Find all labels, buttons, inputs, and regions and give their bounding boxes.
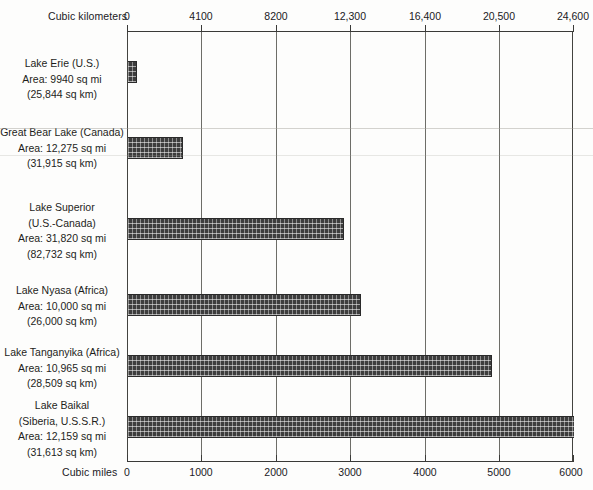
top-tick-label-2: 8200 [264, 10, 287, 22]
bottom-tick-mark-0 [127, 455, 128, 462]
row-label-lake-nyasa: Lake Nyasa (Africa) Area: 10,000 sq mi (… [0, 283, 124, 330]
row-label-line: (26,000 sq km) [0, 314, 124, 330]
gridline-1000 [201, 32, 202, 461]
bottom-tick-mark-3 [350, 455, 351, 462]
row-label-line: Lake Baikal [0, 398, 124, 414]
row-label-line: Area: 9940 sq mi [0, 72, 124, 88]
row-label-line: Lake Superior [0, 200, 124, 216]
top-tick-mark-0 [127, 25, 128, 32]
row-label-lake-tanganyika: Lake Tanganyika (Africa) Area: 10,965 sq… [0, 345, 124, 392]
row-label-line: Lake Erie (U.S.) [0, 56, 124, 72]
bottom-tick-label-4: 4000 [413, 466, 436, 478]
row-label-line: Area: 10,000 sq mi [0, 299, 124, 315]
row-label-line: (28,509 sq km) [0, 376, 124, 392]
bottom-tick-mark-6 [573, 455, 574, 462]
row-label-line: (82,732 sq km) [0, 247, 124, 263]
row-label-line: Area: 12,275 sq mi [0, 141, 124, 157]
bottom-tick-mark-1 [201, 455, 202, 462]
bottom-tick-mark-5 [499, 455, 500, 462]
top-tick-label-1: 4100 [189, 10, 212, 22]
row-label-lake-erie: Lake Erie (U.S.) Area: 9940 sq mi (25,84… [0, 56, 124, 103]
row-label-line: (Siberia, U.S.S.R.) [0, 414, 124, 430]
bottom-tick-label-2: 2000 [264, 466, 287, 478]
bottom-tick-label-1: 1000 [189, 466, 212, 478]
bottom-tick-mark-2 [276, 455, 277, 462]
bar-great-bear-lake [128, 137, 183, 159]
row-label-great-bear-lake: Great Bear Lake (Canada) Area: 12,275 sq… [0, 125, 124, 172]
row-label-line: Area: 31,820 sq mi [0, 231, 124, 247]
top-tick-mark-2 [276, 25, 277, 32]
row-label-line: (U.S.-Canada) [0, 216, 124, 232]
bottom-tick-mark-4 [425, 455, 426, 462]
bar-lake-superior [128, 218, 344, 240]
bottom-tick-label-6: 6000 [559, 466, 582, 478]
top-tick-mark-1 [201, 25, 202, 32]
row-label-line: Great Bear Lake (Canada) [0, 125, 124, 141]
bar-lake-erie [128, 61, 137, 83]
top-tick-mark-6 [573, 25, 574, 32]
plot-area [127, 32, 573, 461]
row-label-line: (31,915 sq km) [0, 156, 124, 172]
top-tick-label-4: 16,400 [409, 10, 441, 22]
bar-lake-tanganyika [128, 355, 492, 377]
row-label-lake-baikal: Lake Baikal (Siberia, U.S.S.R.) Area: 12… [0, 398, 124, 460]
top-tick-label-6: 24,600 [557, 10, 589, 22]
top-tick-label-3: 12,300 [334, 10, 366, 22]
top-tick-mark-4 [425, 25, 426, 32]
top-tick-label-0: 0 [124, 10, 130, 22]
chart-page: Cubic kilometers 0 4100 8200 12,300 16,4… [0, 0, 593, 490]
row-label-line: Area: 10,965 sq mi [0, 361, 124, 377]
gridline-3000 [350, 32, 351, 461]
bottom-axis-label: Cubic miles [62, 466, 117, 478]
row-label-line: Lake Tanganyika (Africa) [0, 345, 124, 361]
top-tick-label-5: 20,500 [483, 10, 515, 22]
bar-lake-nyasa [128, 294, 361, 316]
bottom-tick-label-0: 0 [124, 466, 130, 478]
row-label-line: (25,844 sq km) [0, 87, 124, 103]
bar-lake-baikal [128, 416, 574, 438]
row-label-line: Area: 12,159 sq mi [0, 429, 124, 445]
row-label-lake-superior: Lake Superior (U.S.-Canada) Area: 31,820… [0, 200, 124, 262]
gridline-5000 [499, 32, 500, 461]
row-label-line: (31,613 sq km) [0, 445, 124, 461]
gridline-2000 [276, 32, 277, 461]
row-label-line: Lake Nyasa (Africa) [0, 283, 124, 299]
top-tick-mark-5 [499, 25, 500, 32]
gridline-4000 [425, 32, 426, 461]
top-tick-mark-3 [350, 25, 351, 32]
bottom-tick-label-3: 3000 [338, 466, 361, 478]
bottom-tick-label-5: 5000 [487, 466, 510, 478]
top-axis-label: Cubic kilometers [48, 10, 127, 22]
